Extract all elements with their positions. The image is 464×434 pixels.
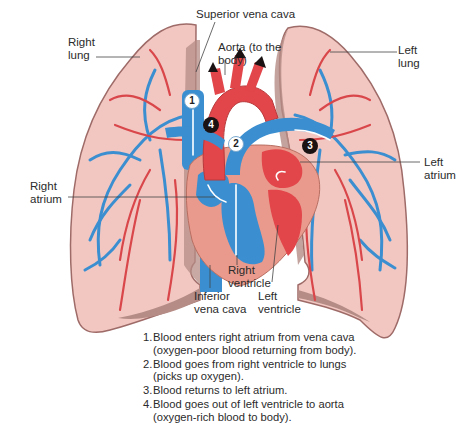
label-right-ventricle: Right ventricle bbox=[228, 264, 271, 290]
step-badge-1: 1 bbox=[184, 93, 200, 109]
step-legend: 1. Blood enters right atrium from vena c… bbox=[143, 331, 463, 425]
label-left-atrium: Left atrium bbox=[424, 156, 456, 182]
label-left-lung: Left lung bbox=[398, 44, 420, 70]
label-right-atrium: Right atrium bbox=[30, 180, 62, 206]
legend-text: Blood returns to left atrium. bbox=[153, 384, 287, 397]
label-inferior-vena-cava: Inferior vena cava bbox=[194, 290, 246, 316]
label-aorta: Aorta (to the body) bbox=[218, 41, 281, 67]
label-right-lung: Right lung bbox=[68, 36, 95, 62]
legend-item-1: 1. Blood enters right atrium from vena c… bbox=[143, 331, 463, 357]
legend-number: 2. bbox=[143, 358, 153, 384]
label-left-ventricle: Left ventricle bbox=[258, 290, 301, 316]
legend-number: 1. bbox=[143, 331, 153, 357]
step-badge-4: 4 bbox=[203, 117, 219, 133]
legend-item-2: 2. Blood goes from right ventricle to lu… bbox=[143, 358, 463, 384]
label-superior-vena-cava: Superior vena cava bbox=[196, 8, 295, 21]
step-badge-3: 3 bbox=[302, 138, 318, 154]
right-lung bbox=[71, 24, 200, 332]
legend-text: Blood goes from right ventricle to lungs… bbox=[153, 358, 346, 384]
legend-text: Blood enters right atrium from vena cava… bbox=[153, 331, 356, 357]
legend-item-3: 3. Blood returns to left atrium. bbox=[143, 384, 463, 397]
legend-item-4: 4. Blood goes out of left ventricle to a… bbox=[143, 398, 463, 424]
legend-text: Blood goes out of left ventricle to aort… bbox=[153, 398, 344, 424]
legend-number: 3. bbox=[143, 384, 153, 397]
step-badge-2: 2 bbox=[228, 136, 244, 152]
circulation-diagram: Superior vena cava Aorta (to the body) R… bbox=[0, 0, 464, 434]
legend-number: 4. bbox=[143, 398, 153, 424]
